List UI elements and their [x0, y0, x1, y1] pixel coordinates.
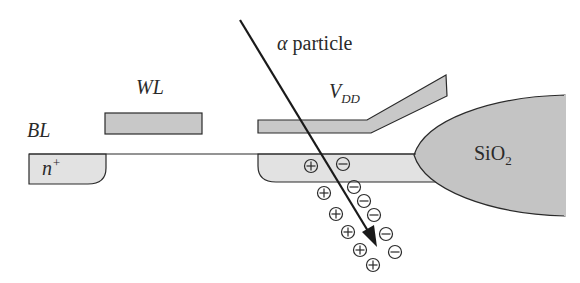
wl-label: WL: [136, 76, 164, 99]
nplus-label: n+: [42, 155, 61, 180]
hole-charge-icon: [342, 226, 355, 239]
hole-charge-icon: [367, 259, 380, 272]
electron-charge-icon: [380, 228, 393, 241]
alpha-symbol: α: [277, 32, 288, 54]
arrowhead-icon: [362, 225, 377, 247]
nplus-diffusion: [29, 154, 106, 184]
vdd-main: V: [329, 80, 341, 102]
hole-charge-icon: [330, 208, 343, 221]
alpha-particle-label: α particle: [277, 32, 352, 55]
electron-charge-icon: [358, 195, 371, 208]
vdd-sub: DD: [341, 91, 360, 106]
electron-charge-icon: [368, 209, 381, 222]
bl-label: BL: [27, 119, 50, 142]
hole-charge-icon: [354, 244, 367, 257]
electron-charge-icon: [389, 246, 402, 259]
sio2-sub: 2: [505, 153, 512, 168]
vdd-label: VDD: [329, 80, 360, 107]
sio2-main: SiO: [474, 142, 505, 164]
sio2-label: SiO2: [474, 142, 512, 169]
nplus-main: n: [42, 157, 52, 179]
nplus-sup: +: [52, 155, 61, 170]
particle-text: particle: [288, 32, 353, 54]
drain-diffusion: [258, 154, 440, 182]
hole-charge-icon: [318, 187, 331, 200]
wordline-gate: [105, 113, 202, 134]
